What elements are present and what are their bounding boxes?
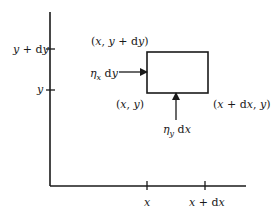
element-diagram: y + dy y x x + dx (x, y + dy) (x, y) (x … [0, 0, 272, 219]
horizontal-flux-label: ηx dy [90, 67, 119, 82]
y-tick-label-y: y [36, 83, 44, 96]
differential-element-box [147, 52, 208, 93]
x-tick-label-x: x [144, 196, 151, 209]
corner-label-bottom-left: (x, y) [116, 98, 144, 111]
y-tick-label-y-plus-dy: y + dy [12, 43, 49, 56]
vertical-flux-label: ηy dx [163, 123, 192, 138]
corner-label-bottom-right: (x + dx, y) [213, 98, 271, 111]
corner-label-top-left: (x, y + dy) [91, 35, 149, 48]
x-tick-label-x-plus-dx: x + dx [189, 196, 225, 209]
